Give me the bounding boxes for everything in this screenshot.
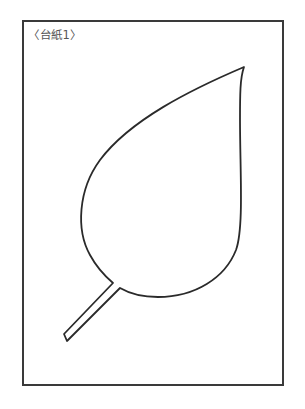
leaf-outline-icon xyxy=(0,0,305,409)
